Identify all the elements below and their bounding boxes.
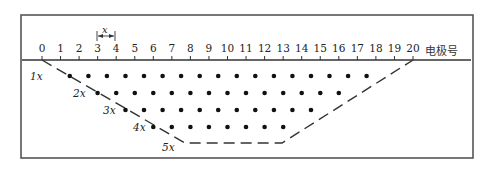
measurement-point [151, 125, 156, 130]
measurement-point [290, 108, 295, 113]
measurement-point [262, 91, 267, 96]
measurement-point [179, 108, 184, 113]
measurement-point [309, 108, 314, 113]
electrode-label: 19 [388, 42, 401, 54]
electrode-labels: 01234567891011121314151617181920 [39, 42, 420, 54]
measurement-point [123, 74, 128, 79]
electrode-label: 7 [169, 42, 176, 54]
measurement-point [207, 125, 212, 130]
measurement-point [281, 91, 286, 96]
measurement-point [197, 108, 202, 113]
electrode-label: 9 [206, 42, 213, 54]
electrode-label: 5 [131, 42, 138, 54]
electrode-label: 12 [258, 42, 271, 54]
measurement-point [225, 91, 230, 96]
measurement-point [235, 74, 240, 79]
electrode-label: 10 [221, 42, 234, 54]
measurement-point [253, 74, 258, 79]
axis-label: 电极号 [425, 44, 458, 58]
depth-label: 5x [162, 141, 175, 153]
measurement-point [105, 74, 110, 79]
electrode-label: 11 [239, 42, 252, 54]
measurement-point [272, 108, 277, 113]
measurement-point [197, 74, 202, 79]
measurement-point [170, 125, 175, 130]
measurement-point [151, 91, 156, 96]
measurement-point [170, 91, 175, 96]
measurement-point [95, 91, 100, 96]
electrode-label: 4 [113, 42, 120, 54]
measurement-point [272, 74, 277, 79]
measurement-point [290, 74, 295, 79]
depth-label: 1x [30, 70, 43, 82]
measurement-point [160, 74, 165, 79]
measurement-point [160, 108, 165, 113]
electrode-label: 14 [295, 42, 309, 54]
measurement-point [188, 125, 193, 130]
measurement-point [262, 125, 267, 130]
electrode-label: 3 [94, 42, 101, 54]
measurement-point [179, 74, 184, 79]
measurement-point [299, 91, 304, 96]
depth-labels: 1x2x3x4x5x [30, 70, 175, 153]
electrode-label: 15 [314, 42, 327, 54]
electrode-label: 6 [150, 42, 157, 54]
measurement-point [244, 125, 249, 130]
measurement-point [244, 91, 249, 96]
measurement-point [337, 91, 342, 96]
arrow-right-icon [109, 34, 114, 38]
electrode-label: 18 [369, 42, 382, 54]
depth-label: 4x [132, 121, 146, 133]
measurement-point [309, 74, 314, 79]
electrode-label: 17 [351, 42, 364, 54]
electrode-label: 20 [406, 42, 419, 54]
measurement-points [68, 74, 369, 130]
measurement-point [123, 108, 128, 113]
measurement-point [142, 74, 147, 79]
electrode-label: 8 [187, 42, 194, 54]
spacing-label: x [102, 24, 108, 35]
measurement-point [364, 74, 369, 79]
dashed-boundary [42, 60, 413, 143]
measurement-point [327, 74, 332, 79]
depth-label: 2x [72, 87, 86, 99]
measurement-point [114, 91, 119, 96]
measurement-point [86, 74, 91, 79]
electrode-ticks [42, 56, 413, 60]
measurement-point [318, 91, 323, 96]
electrode-label: 13 [276, 42, 289, 54]
depth-label: 3x [103, 104, 116, 116]
measurement-point [253, 108, 258, 113]
measurement-point [225, 125, 230, 130]
measurement-point [346, 74, 351, 79]
measurement-point [68, 74, 73, 79]
electrode-label: 2 [76, 42, 83, 54]
measurement-point [188, 91, 193, 96]
electrode-label: 0 [39, 42, 46, 54]
measurement-point [281, 125, 286, 130]
electrode-label: 16 [332, 42, 346, 54]
measurement-point [142, 108, 147, 113]
spacing-dimension-marker: x [97, 24, 115, 41]
measurement-point [235, 108, 240, 113]
electrode-pseudosection-diagram: 01234567891011121314151617181920 电极号 x 1… [0, 0, 493, 171]
measurement-point [216, 74, 221, 79]
measurement-point [133, 91, 138, 96]
measurement-point [216, 108, 221, 113]
electrode-label: 1 [57, 42, 64, 54]
measurement-point [207, 91, 212, 96]
